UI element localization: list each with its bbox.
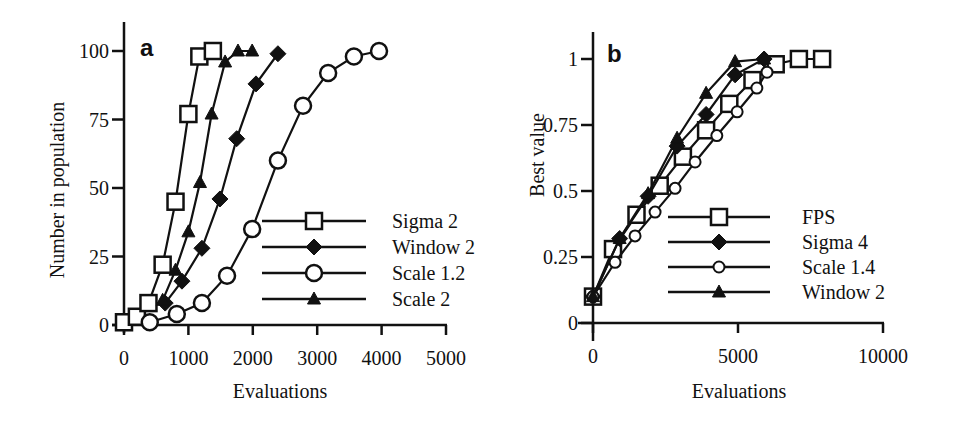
data-point-marker [142, 314, 158, 330]
data-point-marker [140, 295, 156, 311]
legend-label: Sigma 4 [802, 231, 868, 254]
data-point-marker [630, 230, 641, 241]
data-point-marker [670, 183, 681, 194]
y-tick-label: 50 [89, 177, 109, 199]
legend-label: Sigma 2 [392, 210, 458, 233]
legend-item: Window 2 [668, 281, 885, 303]
axes-a [112, 22, 447, 333]
data-point-marker [194, 295, 210, 311]
legend-item: FPS [668, 206, 835, 228]
x-tick-label: 4000 [362, 347, 402, 369]
legend-marker-icon [711, 234, 727, 250]
legend-a: Sigma 2Window 2Scale 1.2Scale 2 [262, 210, 475, 310]
data-point-marker [193, 176, 206, 188]
data-point-marker [168, 194, 184, 210]
y-ticks-a: 0255075100 [79, 40, 124, 336]
data-point-marker [212, 191, 228, 207]
legend-item: Sigma 2 [262, 210, 458, 233]
data-point-marker [205, 43, 221, 59]
data-point-marker [270, 46, 286, 62]
data-point-marker [155, 257, 171, 273]
data-point-marker [751, 83, 762, 94]
figure-canvas: 0255075100 010002000300040005000 a Evalu… [0, 0, 955, 426]
legend-marker-icon [306, 213, 322, 229]
y-tick-label: 0 [99, 314, 109, 336]
x-tick-label: 5000 [718, 345, 758, 367]
x-tick-label: 1000 [168, 347, 208, 369]
data-point-marker [248, 76, 264, 92]
data-point-marker [169, 306, 185, 322]
data-point-marker [270, 153, 286, 169]
x-tick-label: 5000 [426, 347, 466, 369]
y-tick-label: 100 [79, 40, 109, 62]
data-point-marker [194, 240, 210, 256]
panel-label-b: b [607, 40, 622, 67]
legend-label: Window 2 [802, 281, 885, 303]
data-point-marker [320, 65, 336, 81]
series-a [116, 43, 387, 330]
legend-label: Scale 1.4 [802, 256, 875, 278]
data-point-marker [180, 106, 196, 122]
chart-panel-b: 00.250.50.751 0500010000 b Evaluations B… [526, 32, 908, 402]
legend-item: Scale 1.4 [668, 256, 875, 278]
legend-b: FPSSigma 4Scale 1.4Window 2 [668, 206, 885, 303]
x-ticks-b: 0500010000 [588, 323, 908, 367]
y-tick-label: 0 [568, 312, 578, 334]
y-axis-title-a: Number in population [46, 102, 69, 279]
panel-label-a: a [140, 34, 154, 61]
legend-item: Window 2 [262, 236, 475, 258]
data-point-marker [814, 51, 830, 67]
x-axis-title-b: Evaluations [692, 380, 787, 402]
legend-label: Scale 2 [392, 288, 450, 310]
data-point-marker [732, 106, 743, 117]
data-point-marker [650, 207, 661, 218]
x-tick-label: 3000 [297, 347, 337, 369]
data-point-marker [219, 268, 235, 284]
data-point-marker [295, 98, 311, 114]
x-axis-title-a: Evaluations [233, 380, 328, 402]
series-line [163, 51, 253, 300]
data-point-marker [205, 107, 218, 119]
legend-label: Scale 1.2 [392, 262, 465, 284]
legend-item: Sigma 4 [668, 231, 868, 254]
x-tick-label: 0 [588, 345, 598, 367]
data-point-marker [762, 67, 773, 78]
legend-item: Scale 1.2 [262, 262, 465, 284]
y-tick-label: 0.25 [543, 246, 578, 268]
x-tick-label: 2000 [233, 347, 273, 369]
x-tick-label: 10000 [858, 345, 908, 367]
data-point-marker [182, 225, 195, 237]
data-point-marker [791, 51, 807, 67]
figure: 0255075100 010002000300040005000 a Evalu… [0, 0, 955, 426]
legend-marker-icon [714, 262, 725, 273]
data-point-marker [711, 130, 722, 141]
data-point-marker [690, 156, 701, 167]
y-tick-label: 0.5 [553, 180, 578, 202]
chart-panel-a: 0255075100 010002000300040005000 a Evalu… [46, 22, 475, 402]
x-ticks-a: 010002000300040005000 [119, 325, 466, 369]
legend-label: Window 2 [392, 236, 475, 258]
y-tick-label: 75 [89, 109, 109, 131]
y-tick-label: 1 [568, 48, 578, 70]
data-point-marker [244, 221, 260, 237]
legend-marker-icon [306, 239, 322, 255]
y-axis-title-b: Best value [526, 113, 548, 197]
y-tick-label: 25 [89, 246, 109, 268]
legend-marker-icon [711, 209, 727, 225]
series-line [165, 54, 278, 303]
data-point-marker [346, 48, 362, 64]
x-tick-label: 0 [119, 347, 129, 369]
data-point-marker [371, 43, 387, 59]
legend-item: Scale 2 [262, 288, 450, 310]
data-point-marker [229, 131, 245, 147]
legend-marker-icon [306, 265, 322, 281]
y-tick-label: 0.75 [543, 114, 578, 136]
legend-label: FPS [802, 206, 835, 228]
